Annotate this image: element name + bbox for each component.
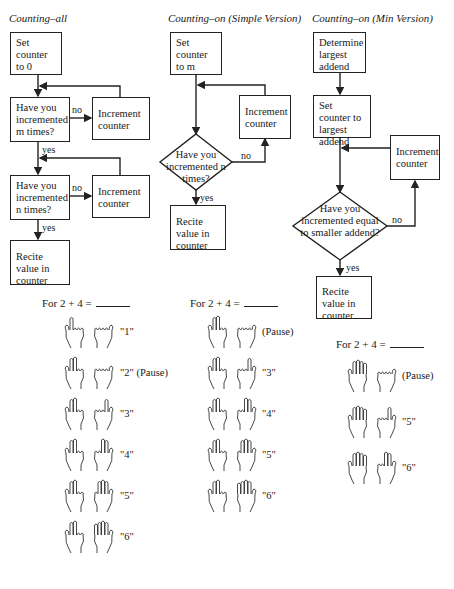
spoken-count-label: "3" — [120, 408, 134, 419]
spoken-count-label: "3" — [262, 367, 276, 378]
right-hand-icon — [233, 478, 259, 516]
spoken-count-label: (Pause) — [402, 370, 434, 381]
spoken-count-label: "6" — [120, 531, 134, 542]
spoken-count-label: "6" — [402, 462, 416, 473]
answer-blank — [390, 337, 424, 348]
right-hand-icon — [373, 358, 399, 396]
spoken-count-label: (Pause) — [262, 326, 294, 337]
yes-label: yes — [42, 144, 55, 155]
spoken-count-label: "5" — [402, 416, 416, 427]
left-hand-icon — [62, 519, 88, 557]
right-hand-icon — [373, 450, 399, 488]
left-hand-icon — [205, 396, 231, 434]
left-hand-icon — [205, 437, 231, 475]
determine-largest-addend-box: Determine largest addend — [313, 32, 366, 73]
problem-text: For 2 + 4 = — [336, 338, 386, 350]
spoken-count-label: "4" — [262, 408, 276, 419]
left-hand-icon — [345, 450, 371, 488]
set-counter-zero-box: Set counter to 0 — [10, 32, 62, 75]
left-hand-icon — [62, 478, 88, 516]
decision-m-times-text: Have you incremented m times? — [16, 102, 68, 137]
left-hand-icon — [62, 355, 88, 393]
no-label: no — [392, 214, 402, 225]
right-hand-icon — [233, 355, 259, 393]
left-hand-icon — [205, 355, 231, 393]
right-hand-icon — [90, 437, 116, 475]
left-hand-icon — [345, 358, 371, 396]
spoken-count-label: "1" — [120, 326, 134, 337]
recite-value-box: Recite value in counter — [10, 240, 70, 285]
counting-all-title: Counting–all — [9, 12, 67, 24]
decision-n-times-text: Have you incremented n times? — [163, 149, 229, 185]
problem-text: For 2 + 4 = — [42, 297, 92, 309]
set-counter-m-box: Set counter to m — [170, 32, 222, 75]
left-hand-icon — [62, 396, 88, 434]
decision-n-times-text: Have you incremented n times? — [16, 180, 68, 215]
left-hand-icon — [205, 478, 231, 516]
right-hand-icon — [90, 478, 116, 516]
set-counter-largest-box: Set counter to largest addend — [313, 95, 371, 138]
recite-value-box: Recite value in counter — [170, 205, 226, 250]
right-hand-icon — [90, 355, 116, 393]
right-hand-icon — [233, 396, 259, 434]
right-hand-icon — [373, 404, 399, 442]
answer-blank — [244, 296, 278, 307]
right-hand-icon — [233, 314, 259, 352]
no-label: no — [72, 182, 82, 193]
spoken-count-label: "6" — [262, 490, 276, 501]
spoken-count-label: "4" — [120, 449, 134, 460]
spoken-count-label: "5" — [120, 490, 134, 501]
left-hand-icon — [62, 314, 88, 352]
decision-n-times-box: Have you incremented n times? — [10, 175, 70, 220]
yes-label: yes — [346, 262, 359, 273]
problem-statement: For 2 + 4 = — [42, 296, 130, 309]
no-label: no — [241, 150, 251, 161]
right-hand-icon — [90, 519, 116, 557]
spoken-count-label: "5" — [262, 449, 276, 460]
right-hand-icon — [90, 396, 116, 434]
problem-statement: For 2 + 4 = — [336, 337, 424, 350]
counting-on-min-title: Counting–on (Min Version) — [312, 12, 433, 24]
yes-label: yes — [200, 192, 213, 203]
left-hand-icon — [205, 314, 231, 352]
problem-statement: For 2 + 4 = — [190, 296, 278, 309]
right-hand-icon — [233, 437, 259, 475]
decision-m-times-box: Have you incremented m times? — [10, 97, 70, 142]
right-hand-icon — [90, 314, 116, 352]
spoken-count-label: "2" (Pause) — [120, 367, 168, 378]
decision-smaller-addend-text: Have you incremented equal to smaller ad… — [297, 203, 383, 239]
left-hand-icon — [62, 437, 88, 475]
answer-blank — [96, 296, 130, 307]
yes-label: yes — [42, 222, 55, 233]
increment-counter-box-2: Increment counter — [92, 175, 150, 218]
recite-value-box: Recite value in counter — [316, 276, 372, 319]
no-label: no — [72, 104, 82, 115]
counting-on-simple-title: Counting–on (Simple Version) — [168, 12, 301, 24]
increment-counter-box: Increment counter — [239, 95, 291, 139]
left-hand-icon — [345, 404, 371, 442]
increment-counter-box-1: Increment counter — [92, 97, 150, 140]
increment-counter-box: Increment counter — [390, 135, 440, 180]
problem-text: For 2 + 4 = — [190, 297, 240, 309]
